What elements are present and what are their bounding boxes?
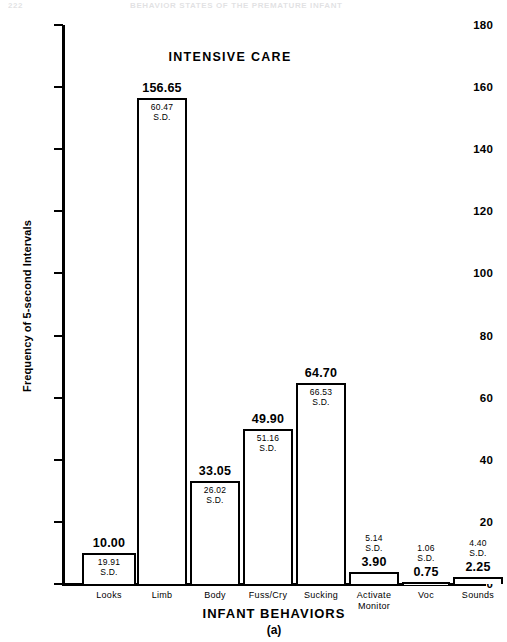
y-tick-label: 160 bbox=[447, 81, 493, 93]
y-tick-label: 40 bbox=[447, 454, 493, 466]
y-tick-label: 20 bbox=[447, 516, 493, 528]
y-tick-mark bbox=[54, 148, 63, 150]
bar-value-label: 2.25 bbox=[435, 560, 507, 574]
bar bbox=[296, 383, 346, 584]
chart-title: INTENSIVE CARE bbox=[140, 50, 320, 64]
y-axis-line bbox=[62, 25, 65, 585]
bar-sd-label: 26.02S.D. bbox=[178, 485, 252, 505]
y-tick-label: 120 bbox=[447, 205, 493, 217]
y-tick-label: 100 bbox=[447, 267, 493, 279]
bar bbox=[453, 577, 503, 584]
y-tick-mark bbox=[54, 521, 63, 523]
x-axis-title: INFANT BEHAVIORS bbox=[62, 606, 486, 621]
bar-sd-label: 4.40S.D. bbox=[441, 538, 507, 558]
y-tick-mark bbox=[54, 86, 63, 88]
y-tick-label: 180 bbox=[447, 19, 493, 31]
bar bbox=[137, 98, 187, 584]
y-tick-mark bbox=[54, 24, 63, 26]
y-tick-mark bbox=[54, 335, 63, 337]
bar-value-label: 64.70 bbox=[278, 366, 364, 380]
y-tick-mark bbox=[54, 583, 63, 585]
bar-sd-label: 60.47S.D. bbox=[125, 102, 199, 122]
y-axis-title: Frequency of 5-second Intervals bbox=[21, 191, 33, 421]
y-tick-mark bbox=[54, 272, 63, 274]
y-tick-mark bbox=[54, 397, 63, 399]
y-tick-mark bbox=[54, 459, 63, 461]
panel-letter: (a) bbox=[62, 623, 486, 637]
y-tick-mark bbox=[54, 210, 63, 212]
y-tick-label: 60 bbox=[447, 392, 493, 404]
y-tick-label: 140 bbox=[447, 143, 493, 155]
y-tick-label: 80 bbox=[447, 330, 493, 342]
bar-sd-label: 51.16S.D. bbox=[231, 433, 305, 453]
bar-sd-label: 66.53S.D. bbox=[284, 387, 358, 407]
bar bbox=[402, 582, 450, 585]
bar-value-label: 156.65 bbox=[119, 81, 205, 95]
category-label: Sounds bbox=[439, 590, 507, 601]
